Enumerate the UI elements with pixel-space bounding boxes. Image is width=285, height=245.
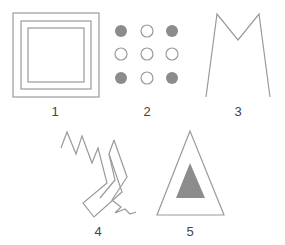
figure-canvas bbox=[0, 0, 285, 245]
figure-3-label: 3 bbox=[228, 104, 248, 119]
figure-2-label: 2 bbox=[137, 104, 157, 119]
figure-4-zigzag-chevrons bbox=[61, 132, 136, 217]
dot-open-icon bbox=[166, 48, 178, 60]
figure-5-triangle-in-triangle bbox=[157, 131, 224, 215]
dot-filled-icon bbox=[166, 25, 178, 37]
figure-1-nested-squares bbox=[13, 13, 99, 97]
dot-open-icon bbox=[141, 25, 153, 37]
figure-1-label: 1 bbox=[45, 104, 65, 119]
dot-open-icon bbox=[141, 72, 153, 84]
figure-5-label: 5 bbox=[180, 224, 200, 239]
figure-3-m-shape bbox=[206, 14, 270, 97]
dot-open-icon bbox=[141, 48, 153, 60]
dot-filled-icon bbox=[115, 72, 127, 84]
dot-filled-icon bbox=[115, 25, 127, 37]
dot-open-icon bbox=[115, 48, 127, 60]
dot-filled-icon bbox=[166, 72, 178, 84]
figure-4-label: 4 bbox=[88, 224, 108, 239]
figure-2-dot-grid bbox=[115, 25, 178, 84]
